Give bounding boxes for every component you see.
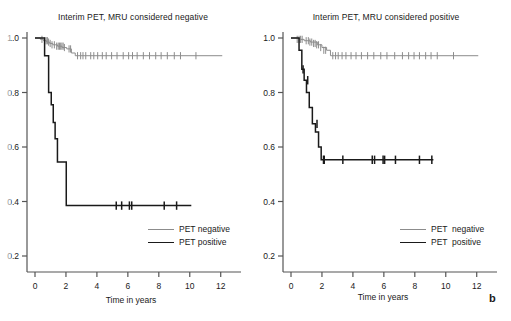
series-pet-positive [291,38,433,164]
x-tick-label: 6 [125,281,130,291]
x-tick-label: 0 [33,281,38,291]
x-tick-label: 12 [472,281,482,291]
series-pet-negative [35,36,222,60]
kaplan-meier-figure: Interim PET, MRU considered negative 1.0… [0,0,511,321]
legend-line-icon-negative [148,224,174,234]
legend-line-icon-negative [400,224,426,234]
y-tick-label: 0.6 [263,142,275,152]
x-tick-label: 2 [320,281,325,291]
legend-item-pet-negative: PET negative [400,222,484,235]
legend-label-pet-negative: PET negative [431,224,484,234]
plot-area-left: 1.00.80.60.40.2024681012 [0,0,256,321]
legend-item-pet-negative: PET negative [148,222,230,235]
series-pet-positive [35,38,191,210]
y-tick-label: 0.8 [263,88,275,98]
left-edge-clip [0,0,11,321]
x-tick-label: 8 [156,281,161,291]
x-tick-label: 12 [216,281,226,291]
x-tick-label: 10 [185,281,195,291]
x-tick-label: 4 [351,281,356,291]
panel-letter-b: b [489,292,496,304]
legend: PET negative PET positive [400,222,484,248]
x-axis-title: Time in years [0,295,256,305]
y-tick-label: 0.4 [263,197,275,207]
x-tick-label: 2 [64,281,69,291]
x-tick-label: 8 [412,281,417,291]
legend-line-icon-positive [148,237,174,247]
panel-interim-pet-mru-positive: Interim PET, MRU considered positive 1.0… [255,0,511,321]
legend: PET negative PET positive [148,222,230,248]
plot-area-right: 1.00.80.60.40.2024681012 [255,0,511,321]
axes: 1.00.80.60.40.2024681012 [263,32,497,291]
y-tick-label: 1.0 [263,33,275,43]
x-tick-label: 10 [441,281,451,291]
legend-item-pet-positive: PET positive [400,235,484,248]
series-pet-negative [291,36,478,60]
x-tick-label: 0 [289,281,294,291]
legend-label-pet-negative: PET negative [179,224,230,234]
x-tick-label: 6 [381,281,386,291]
x-axis-title: Time in years [255,292,511,302]
legend-label-pet-positive: PET positive [431,237,481,247]
legend-label-pet-positive: PET positive [179,237,227,247]
panel-interim-pet-mru-negative: Interim PET, MRU considered negative 1.0… [0,0,256,321]
axes: 1.00.80.60.40.2024681012 [7,32,241,291]
x-tick-label: 4 [95,281,100,291]
legend-item-pet-positive: PET positive [148,235,230,248]
y-tick-label: 0.2 [263,251,275,261]
legend-line-icon-positive [400,237,426,247]
